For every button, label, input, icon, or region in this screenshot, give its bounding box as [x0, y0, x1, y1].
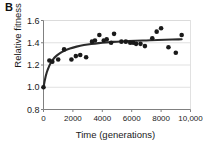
x-tick-label: 10,000 [178, 114, 203, 123]
gridlines [44, 21, 191, 88]
y-tick-label: 1.6 [27, 16, 40, 26]
fit-curve-path [44, 39, 182, 87]
data-point [104, 37, 109, 42]
data-point [143, 44, 148, 49]
data-point [56, 57, 61, 62]
data-point [150, 36, 155, 41]
data-point [41, 85, 46, 90]
fit-curve [44, 39, 182, 87]
data-point [74, 54, 79, 59]
data-points [41, 26, 184, 90]
y-tick-labels: 0.81.01.21.41.6 [27, 16, 40, 115]
data-point [97, 33, 102, 38]
data-point [166, 45, 171, 50]
y-tick-label: 0.8 [27, 105, 40, 115]
data-point [93, 38, 98, 43]
x-tick-label: 8000 [152, 114, 170, 123]
data-point [112, 32, 117, 37]
x-tick-label: 2000 [64, 114, 82, 123]
data-point [179, 33, 184, 38]
data-point [174, 50, 179, 55]
data-point [84, 55, 89, 60]
data-point [62, 47, 67, 52]
x-tick-label: 0 [41, 114, 46, 123]
data-point [50, 59, 55, 64]
scatter-plot: 0.81.01.21.41.6 0200040006000800010,000 [0, 0, 207, 152]
x-tick-label: 6000 [123, 114, 141, 123]
data-point [124, 39, 129, 44]
data-point [154, 29, 159, 34]
data-point [138, 42, 143, 47]
x-tick-labels: 0200040006000800010,000 [41, 114, 203, 123]
y-tick-label: 1.0 [27, 82, 40, 92]
x-tick-label: 4000 [93, 114, 111, 123]
data-point [109, 40, 114, 45]
data-point [134, 42, 139, 47]
y-tick-label: 1.4 [27, 38, 40, 48]
data-point [159, 26, 164, 31]
y-tick-label: 1.2 [27, 60, 40, 70]
data-point [78, 53, 83, 58]
data-point [119, 39, 124, 44]
data-point [69, 57, 74, 62]
figure-panel-b: B Relative fitness Time (generations) 0.… [0, 0, 207, 152]
